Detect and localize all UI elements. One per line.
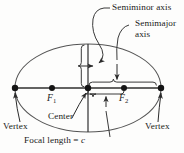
- vertex-left-leader: [15, 93, 20, 122]
- semimajor-axis-label-line1: Semimajor: [135, 19, 176, 29]
- vertex-left-label: Vertex: [3, 122, 28, 132]
- semimajor-brace: [89, 79, 156, 85]
- focal-length-leader: [106, 111, 110, 137]
- vertex-left-point: [12, 85, 18, 91]
- semimajor-axis-label-line2: axis: [135, 30, 150, 40]
- focus-1-point: [49, 85, 55, 91]
- center-point: [85, 85, 91, 91]
- focus-2-point: [121, 85, 127, 91]
- semiminor-leader: [93, 8, 104, 63]
- semimajor-leader: [117, 25, 129, 60]
- focus-1-subscript: 1: [53, 97, 56, 104]
- center-label: Center: [48, 112, 73, 122]
- focus-2-label: F2: [119, 93, 128, 103]
- focus-2-subscript: 2: [125, 97, 128, 104]
- focal-length-variable: c: [81, 135, 85, 145]
- focus-1-label: F1: [47, 93, 56, 103]
- vertex-right-label: Vertex: [145, 122, 170, 132]
- focal-length-label: Focal length = c: [24, 136, 85, 146]
- ellipse-diagram-figure: Semiminor axis Semimajor axis F1 F2 Vert…: [0, 0, 184, 153]
- semiminor-axis-label: Semiminor axis: [112, 3, 171, 13]
- vertex-right-point: [158, 85, 164, 91]
- center-leader: [72, 93, 86, 118]
- focal-length-text: Focal length =: [24, 135, 81, 145]
